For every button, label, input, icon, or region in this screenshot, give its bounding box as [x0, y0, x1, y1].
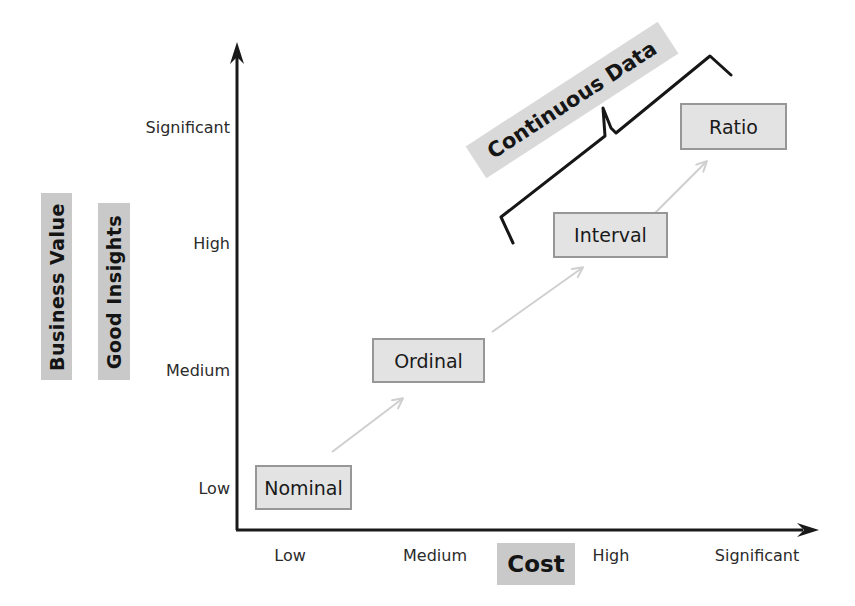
- data-box-ratio-label: Ratio: [709, 116, 758, 138]
- diagram-canvas: Business Value Good Insights Significant…: [0, 0, 855, 606]
- y-tick-significant: Significant: [146, 118, 230, 137]
- data-box-ordinal: Ordinal: [372, 338, 485, 383]
- arrow-nominal-to-ordinal: [332, 399, 402, 452]
- y-tick-low: Low: [198, 479, 230, 498]
- y-tick-high: High: [193, 234, 230, 253]
- x-axis-title-cost-label: Cost: [507, 551, 564, 577]
- x-tick-high: High: [593, 546, 630, 565]
- x-axis-title-cost: Cost: [497, 543, 575, 585]
- x-tick-significant: Significant: [715, 546, 799, 565]
- y-axis-title-good-insights-label: Good Insights: [103, 214, 125, 368]
- x-tick-low: Low: [274, 546, 306, 565]
- data-box-interval: Interval: [553, 212, 668, 258]
- data-box-ordinal-label: Ordinal: [394, 350, 463, 372]
- x-tick-medium: Medium: [403, 546, 467, 565]
- y-axis-title-business-value: Business Value: [41, 193, 72, 380]
- data-box-ratio: Ratio: [680, 103, 787, 150]
- data-box-nominal: Nominal: [255, 465, 352, 510]
- y-axis-title-good-insights: Good Insights: [98, 203, 130, 380]
- data-box-nominal-label: Nominal: [264, 477, 343, 499]
- y-tick-medium: Medium: [166, 361, 230, 380]
- arrow-ordinal-to-interval: [492, 268, 582, 332]
- y-axis-title-business-value-label: Business Value: [46, 203, 68, 371]
- data-box-interval-label: Interval: [574, 224, 647, 246]
